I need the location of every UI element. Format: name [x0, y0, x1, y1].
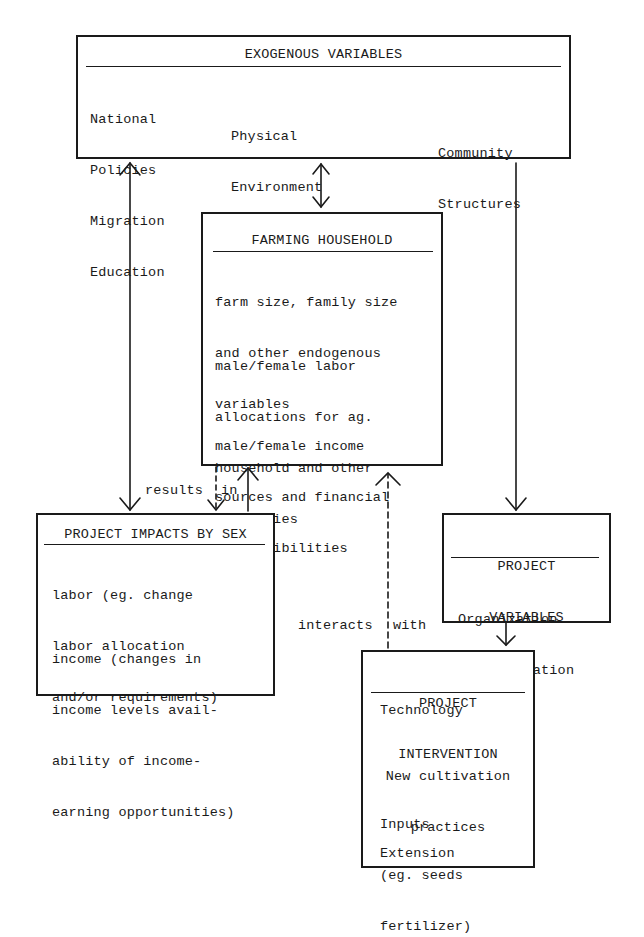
label-with: with [393, 617, 426, 634]
exogenous-title-rule [86, 66, 561, 67]
label-in: in [221, 482, 238, 499]
intervention-extension: Extension [380, 845, 455, 862]
label-interacts: interacts [298, 617, 373, 634]
exogenous-col3: Community Structures [438, 111, 521, 247]
household-title: FARMING HOUSEHOLD [203, 232, 441, 249]
project-variables-box: PROJECT VARIABLES Organization Administr… [442, 513, 611, 623]
impacts-title: PROJECT IMPACTS BY SEX [38, 526, 273, 543]
project-variables-title-rule [451, 557, 599, 558]
impacts-title-rule [44, 544, 265, 545]
intervention-title-rule [371, 692, 525, 693]
impacts-paragraph-income: income (changes in income levels avail- … [52, 617, 235, 855]
exogenous-variables-box: EXOGENOUS VARIABLES National Policies Mi… [76, 35, 571, 159]
project-intervention-box: PROJECT INTERVENTION Technology New cult… [361, 650, 535, 868]
label-results: results [145, 482, 203, 499]
project-impacts-box: PROJECT IMPACTS BY SEX labor (eg. change… [36, 513, 275, 696]
household-title-rule [213, 251, 433, 252]
intervention-technology: Technology [380, 702, 463, 719]
exogenous-col1: National Policies Migration Education [90, 77, 165, 315]
farming-household-box: FARMING HOUSEHOLD farm size, family size… [201, 212, 443, 466]
exogenous-title: EXOGENOUS VARIABLES [78, 46, 569, 63]
